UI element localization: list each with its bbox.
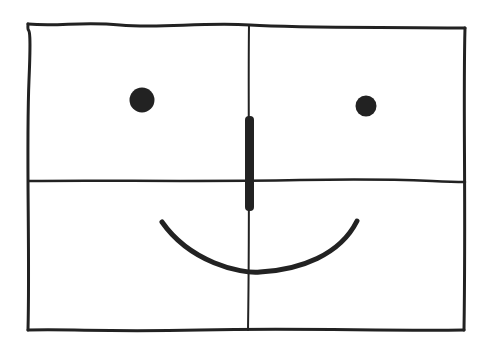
- right-eye: [356, 96, 377, 117]
- frame-bottom-edge: [28, 329, 464, 330]
- nose: [245, 116, 254, 211]
- frame-top-edge: [28, 24, 465, 28]
- frame-right-edge: [464, 28, 465, 330]
- smiley-grid-drawing: [0, 0, 492, 348]
- frame-left-edge: [28, 24, 30, 330]
- left-eye: [130, 88, 155, 113]
- mouth-smile: [162, 221, 357, 272]
